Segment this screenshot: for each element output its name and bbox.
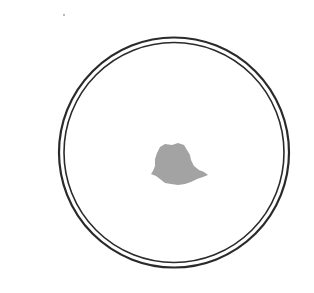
country-silhouette: [151, 143, 208, 185]
speck: [63, 14, 65, 16]
figure: [0, 0, 314, 293]
globe-frame: [0, 0, 314, 293]
